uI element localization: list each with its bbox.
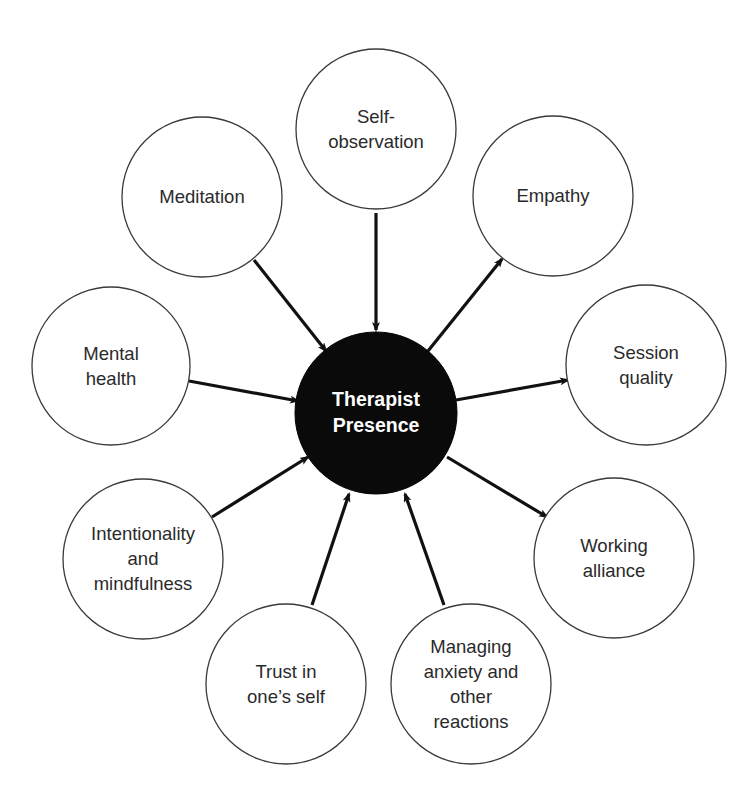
node-label-line: health [86, 368, 136, 389]
center-circle [295, 332, 457, 494]
node-circle [534, 478, 694, 638]
node-empathy: Empathy [473, 116, 633, 276]
center-node: TherapistPresence [295, 332, 457, 494]
node-intentionality-and-mindfulness: Intentionalityandmindfulness [63, 479, 223, 639]
node-circle [391, 604, 551, 764]
node-circle [566, 285, 726, 445]
arrow-intentionality-and-mindfulness-to-center [212, 457, 308, 517]
node-self-observation: Self-observation [296, 49, 456, 209]
node-circle [296, 49, 456, 209]
node-label-line: Managing [430, 636, 511, 657]
node-label-line: Self- [357, 106, 395, 127]
arrow-empathy-from-center [428, 259, 502, 351]
node-label-line: Working [580, 535, 648, 556]
node-label-line: reactions [433, 711, 508, 732]
node-label-line: one’s self [247, 686, 326, 707]
node-label-line: anxiety and [424, 661, 519, 682]
node-managing-anxiety-and-other-reactions: Managinganxiety andotherreactions [391, 604, 551, 764]
node-label-line: Session [613, 342, 679, 363]
node-label-line: other [450, 686, 492, 707]
node-label-line: Meditation [159, 186, 244, 207]
arrow-session-quality-from-center [456, 380, 568, 400]
node-label-line: Intentionality [91, 523, 196, 544]
arrow-trust-in-ones-self-to-center [312, 494, 349, 605]
node-circle [32, 287, 190, 445]
arrow-mental-health-to-center [189, 381, 298, 401]
node-label-line: alliance [583, 560, 646, 581]
node-working-alliance: Workingalliance [534, 478, 694, 638]
node-circle [206, 604, 366, 764]
therapist-presence-diagram: Self-observationMeditationEmpathyMentalh… [0, 0, 756, 796]
node-label-line: mindfulness [94, 573, 193, 594]
node-label-line: Trust in [256, 661, 317, 682]
node-mental-health: Mentalhealth [32, 287, 190, 445]
node-label-line: quality [619, 367, 673, 388]
node-label-line: Presence [333, 414, 420, 436]
arrow-working-alliance-from-center [447, 457, 547, 517]
node-label-line: Therapist [332, 388, 420, 410]
node-meditation: Meditation [122, 117, 282, 277]
node-label-line: observation [328, 131, 424, 152]
node-label-line: and [128, 548, 159, 569]
node-label-line: Mental [83, 343, 139, 364]
arrow-managing-anxiety-and-other-reactions-to-center [405, 494, 444, 605]
node-label-line: Empathy [516, 185, 590, 206]
node-trust-in-ones-self: Trust inone’s self [206, 604, 366, 764]
node-session-quality: Sessionquality [566, 285, 726, 445]
arrow-meditation-to-center [254, 260, 326, 351]
